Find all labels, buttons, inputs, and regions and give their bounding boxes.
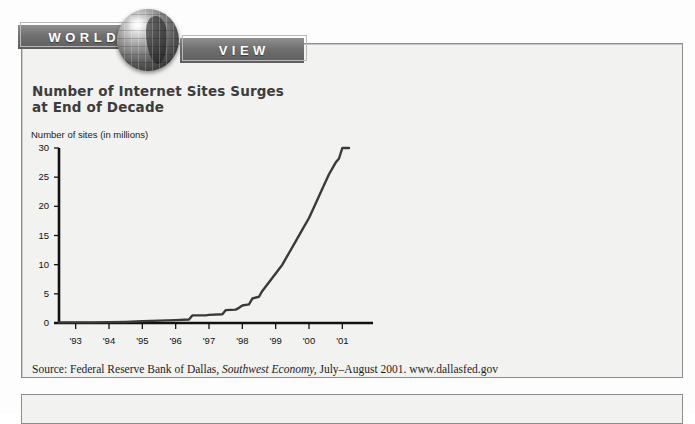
chart: Number of sites (in millions) 0510152025…: [21, 110, 421, 365]
chart-plot-area: [21, 110, 421, 365]
y-tick-label: 0: [25, 317, 49, 328]
banner-bar-view: VIEW: [180, 38, 304, 63]
x-tick-label: '96: [162, 335, 190, 346]
x-tick-label: '95: [128, 335, 156, 346]
lower-content-box: [21, 394, 683, 424]
banner-label-view: VIEW: [180, 38, 304, 63]
world-view-banner: WORLD VIEW: [0, 0, 330, 78]
source-prefix: Source: Federal Reserve Bank of Dallas,: [32, 363, 219, 375]
x-tick-label: '01: [328, 335, 356, 346]
globe-icon: [117, 9, 179, 71]
chart-series-group: [59, 148, 349, 322]
source-publication: Southwest Economy,: [222, 363, 317, 375]
y-tick-label: 30: [25, 142, 49, 153]
x-tick-label: '99: [262, 335, 290, 346]
y-tick-label: 25: [25, 171, 49, 182]
y-tick-label: 20: [25, 200, 49, 211]
chart-axes: [54, 148, 373, 329]
x-tick-label: '94: [95, 335, 123, 346]
x-tick-label: '98: [228, 335, 256, 346]
y-tick-label: 5: [25, 288, 49, 299]
y-tick-label: 10: [25, 259, 49, 270]
source-suffix: July–August 2001. www.dallasfed.gov: [319, 363, 497, 375]
globe-highlight: [127, 16, 148, 32]
source-note: Source: Federal Reserve Bank of Dallas, …: [32, 363, 498, 375]
chart-line-internet-sites: [59, 148, 349, 322]
globe-parallels: [117, 9, 179, 71]
x-tick-label: '00: [295, 335, 323, 346]
x-tick-label: '93: [62, 335, 90, 346]
x-tick-label: '97: [195, 335, 223, 346]
y-tick-label: 15: [25, 230, 49, 241]
